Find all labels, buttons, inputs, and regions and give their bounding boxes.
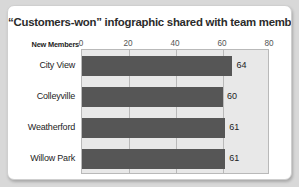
chart-title: “Customers-won” infographic shared with … xyxy=(8,16,291,28)
category-label: Weatherford xyxy=(11,122,75,132)
x-tick-label-80: 80 xyxy=(264,39,273,48)
x-axis-label: New Members xyxy=(25,40,79,49)
category-label: Willow Park xyxy=(11,153,75,163)
bar-value-label: 61 xyxy=(229,153,239,163)
infographic-card: “Customers-won” infographic shared with … xyxy=(7,5,292,180)
bar-value-label: 64 xyxy=(236,60,246,70)
bar-value-label: 61 xyxy=(229,122,239,132)
x-tick-label-60: 60 xyxy=(217,39,226,48)
x-tick-label-0: 0 xyxy=(79,39,84,48)
screenshot-root: “Customers-won” infographic shared with … xyxy=(0,0,299,187)
bar xyxy=(82,149,225,169)
category-label: Colleyville xyxy=(11,91,75,101)
x-tick-label-20: 20 xyxy=(123,39,132,48)
x-tick-label-40: 40 xyxy=(170,39,179,48)
bar xyxy=(82,56,232,76)
bar xyxy=(82,118,225,138)
bar-value-label: 60 xyxy=(227,91,237,101)
category-label: City View xyxy=(11,60,75,70)
bar xyxy=(82,87,223,107)
